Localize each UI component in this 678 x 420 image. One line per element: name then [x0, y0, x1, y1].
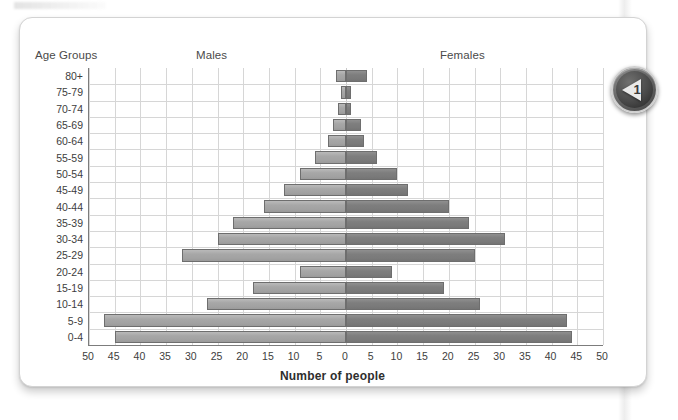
bar-male [233, 217, 346, 229]
bar-female [346, 151, 377, 163]
bar-male [264, 200, 346, 212]
y-tick-label: 40-44 [56, 201, 83, 213]
y-tick-label: 5-9 [68, 315, 83, 327]
pyramid-row [89, 247, 603, 263]
gridline-vertical [603, 68, 604, 345]
age-groups-header: Age Groups [35, 49, 97, 61]
y-tick-label: 15-19 [56, 282, 83, 294]
y-axis-tick-labels: 80+75-7970-7465-6960-6455-5950-5445-4940… [33, 68, 83, 345]
x-tick-label: 35 [159, 350, 171, 362]
bar-female [346, 331, 572, 343]
pyramid-row [89, 68, 603, 84]
x-tick-label: 10 [288, 350, 300, 362]
plot-area [88, 68, 603, 346]
bar-male [338, 103, 346, 115]
x-tick-label: 45 [570, 350, 582, 362]
x-tick-label: 0 [342, 350, 348, 362]
pyramid-row [89, 84, 603, 100]
x-tick-label: 15 [262, 350, 274, 362]
y-tick-label: 30-34 [56, 233, 83, 245]
pyramid-row [89, 101, 603, 117]
x-tick-label: 30 [493, 350, 505, 362]
x-tick-label: 20 [442, 350, 454, 362]
bar-male [315, 151, 346, 163]
y-tick-label: 0-4 [68, 331, 83, 343]
bar-female [346, 233, 505, 245]
y-tick-label: 60-64 [56, 135, 83, 147]
pyramid-row [89, 264, 603, 280]
bar-male [115, 331, 346, 343]
badge-number: 1 [613, 68, 656, 111]
x-tick-label: 50 [596, 350, 608, 362]
bar-female [346, 70, 367, 82]
bar-male [253, 282, 346, 294]
y-tick-label: 10-14 [56, 298, 83, 310]
y-tick-label: 50-54 [56, 168, 83, 180]
bar-female [346, 314, 567, 326]
bar-male [333, 119, 346, 131]
pyramid-row [89, 149, 603, 165]
bar-female [346, 217, 469, 229]
y-tick-label: 25-29 [56, 249, 83, 261]
pyramid-row [89, 166, 603, 182]
pyramid-row [89, 329, 603, 345]
x-tick-label: 10 [391, 350, 403, 362]
x-tick-label: 30 [185, 350, 197, 362]
bar-male [218, 233, 347, 245]
x-tick-label: 35 [519, 350, 531, 362]
bar-female [346, 266, 392, 278]
x-tick-label: 25 [468, 350, 480, 362]
x-tick-label: 50 [82, 350, 94, 362]
y-tick-label: 65-69 [56, 119, 83, 131]
bar-female [346, 168, 397, 180]
y-tick-label: 75-79 [56, 86, 83, 98]
pyramid-row [89, 182, 603, 198]
bar-male [207, 298, 346, 310]
page-number-badge[interactable]: 1 [611, 66, 658, 113]
x-axis-title: Number of people [0, 369, 678, 383]
x-tick-label: 5 [316, 350, 322, 362]
males-header: Males [196, 49, 227, 61]
x-tick-label: 5 [368, 350, 374, 362]
scan-artifact [14, 2, 106, 9]
bar-male [300, 168, 346, 180]
bar-male [300, 266, 346, 278]
pyramid-row [89, 117, 603, 133]
bar-female [346, 119, 361, 131]
x-tick-label: 40 [134, 350, 146, 362]
y-tick-label: 80+ [65, 70, 83, 82]
pyramid-row [89, 231, 603, 247]
bar-female [346, 135, 364, 147]
y-tick-label: 45-49 [56, 184, 83, 196]
y-tick-label: 35-39 [56, 217, 83, 229]
pyramid-row [89, 296, 603, 312]
pyramid-row [89, 133, 603, 149]
pyramid-row [89, 198, 603, 214]
bar-female [346, 86, 351, 98]
bar-male [284, 184, 346, 196]
pyramid-row [89, 280, 603, 296]
bar-female [346, 200, 449, 212]
pyramid-row [89, 312, 603, 328]
y-tick-label: 55-59 [56, 152, 83, 164]
x-tick-label: 45 [108, 350, 120, 362]
bar-male [182, 249, 346, 261]
pyramid-row [89, 215, 603, 231]
bar-male [328, 135, 346, 147]
bar-female [346, 103, 351, 115]
bar-female [346, 298, 480, 310]
x-tick-label: 25 [211, 350, 223, 362]
y-tick-label: 70-74 [56, 103, 83, 115]
bar-female [346, 282, 444, 294]
bar-female [346, 249, 475, 261]
bar-male [104, 314, 346, 326]
x-axis-title-text: Number of people [280, 369, 385, 383]
page-root: Age Groups Males Females 80+75-7970-7465… [0, 0, 678, 420]
bar-female [346, 184, 408, 196]
x-tick-label: 15 [416, 350, 428, 362]
y-tick-label: 20-24 [56, 266, 83, 278]
bar-male [336, 70, 346, 82]
females-header: Females [440, 49, 485, 61]
x-tick-label: 20 [236, 350, 248, 362]
x-tick-label: 40 [545, 350, 557, 362]
